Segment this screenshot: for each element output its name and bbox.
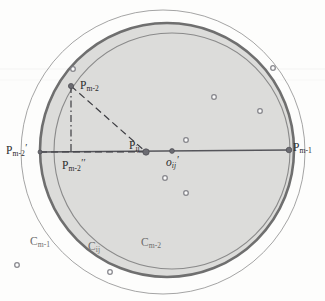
label-c-ij: Cij — [88, 241, 100, 253]
label-p-ij: Pij — [129, 140, 140, 152]
scatter-dot-4 — [184, 138, 189, 143]
label-p-m-2-top: Pm-2 — [80, 80, 99, 92]
label-p-m-2-doubleprime-foot-sub: m-2 — [68, 164, 81, 173]
label-p-ij-sub: ij — [135, 144, 139, 153]
scatter-dot-2 — [212, 95, 217, 100]
figure-svg — [0, 0, 325, 301]
label-c-m-2-base: C — [141, 236, 149, 248]
label-c-m-1-sub: m-1 — [38, 240, 51, 249]
label-p-m-2-prime-left: Pm-2′ — [6, 145, 27, 157]
label-c-ij-sub: ij — [96, 245, 100, 254]
label-p-m-1-right-sub: m-1 — [299, 146, 312, 155]
point-p-m-2 — [68, 83, 73, 88]
label-o-ij-prime: oij′ — [166, 157, 178, 169]
label-p-m-2-prime-left-prime: ′ — [25, 142, 27, 153]
label-c-m-1-base: C — [30, 235, 38, 247]
scatter-dot-5 — [163, 176, 168, 181]
label-c-ij-base: C — [88, 240, 96, 252]
figure-canvas: Pm-2 Pm-2′ Pm-2′′ Pij Pm-1 oij′ Cm-1 Cij… — [0, 0, 325, 301]
scatter-dot-1 — [71, 67, 76, 72]
label-o-ij-prime-prime: ′ — [177, 154, 179, 165]
label-p-m-2-top-sub: m-2 — [86, 84, 99, 93]
label-c-m-2: Cm-2 — [141, 237, 161, 249]
label-p-m-2-prime-left-sub: m-2 — [12, 149, 25, 158]
label-c-m-1: Cm-1 — [30, 236, 50, 248]
scatter-dot-8 — [108, 270, 113, 275]
scatter-dot-7 — [15, 263, 20, 268]
point-p-m-1 — [286, 147, 292, 153]
scatter-dot-0 — [271, 66, 276, 71]
label-p-m-2-doubleprime-foot: Pm-2′′ — [62, 160, 85, 172]
scatter-dot-6 — [184, 191, 189, 196]
label-p-m-2-doubleprime-foot-prime: ′′ — [81, 157, 85, 168]
point-o-ij- — [170, 149, 175, 154]
label-p-m-1-right: Pm-1 — [293, 142, 312, 154]
label-c-m-2-sub: m-2 — [149, 241, 162, 250]
label-o-ij-prime-sub: ij — [172, 161, 176, 170]
point-p-ij — [143, 149, 149, 155]
scatter-dot-3 — [258, 109, 263, 114]
point-p-m-2- — [38, 150, 42, 154]
label-o-ij-prime-base: o — [166, 156, 172, 168]
